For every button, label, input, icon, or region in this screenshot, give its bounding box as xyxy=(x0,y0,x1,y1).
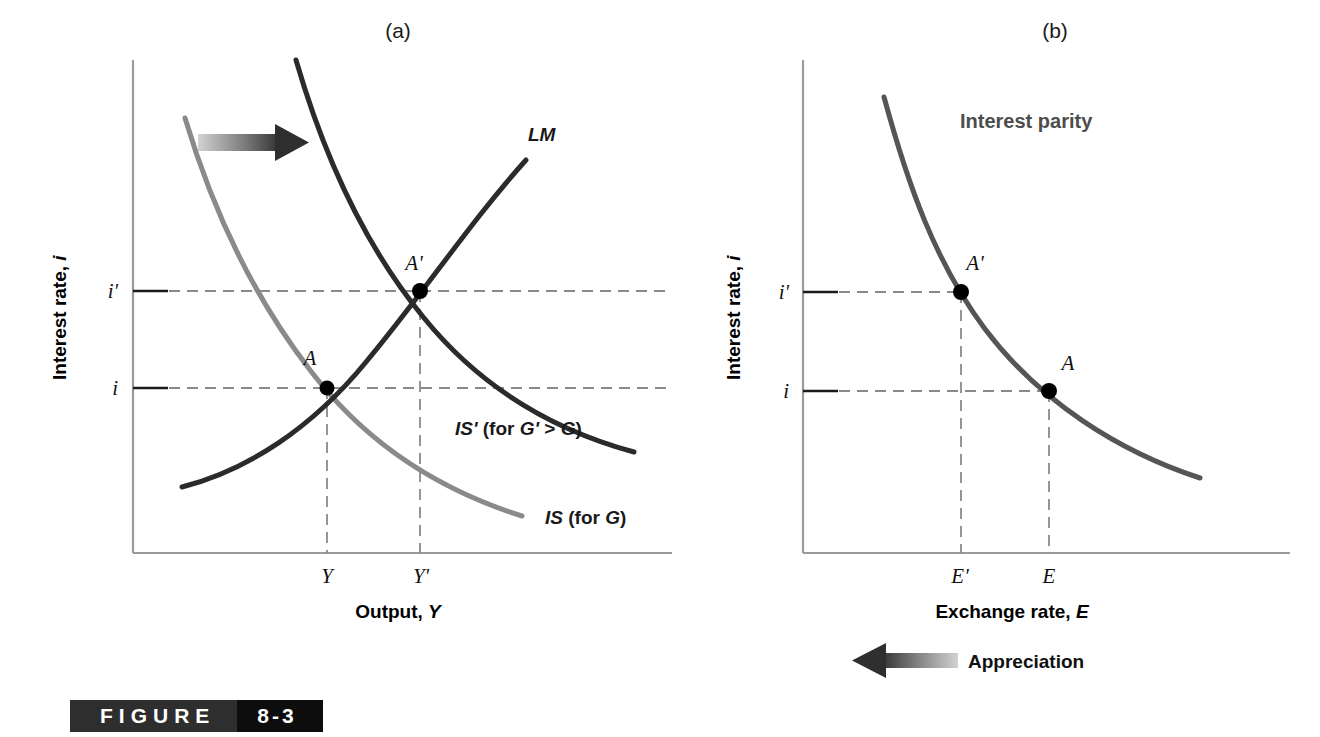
panel-a-point-A xyxy=(320,381,335,396)
panel-a-title: (a) xyxy=(385,19,411,42)
panel-b-interest-parity-curve xyxy=(884,97,1200,478)
figure-canvas: (a) Interest rate, i Output, Y i' xyxy=(0,0,1320,700)
panel-b-ytick-label-i: i xyxy=(783,379,789,403)
panel-b: (b) Interest rate, i Exchange rate, E i' xyxy=(723,19,1290,678)
panel-a-is-prime-curve xyxy=(296,60,634,452)
panel-b-title: (b) xyxy=(1042,19,1068,42)
panel-a-is-prime-label: IS' (for G' > G) xyxy=(455,418,582,439)
panel-a-point-label-A-prime: A' xyxy=(403,251,423,275)
panel-b-xtick-label-E: E xyxy=(1042,564,1056,588)
figure-caption-bar: FIGURE 8-3 xyxy=(70,700,323,732)
panel-a: (a) Interest rate, i Output, Y i' xyxy=(49,19,672,622)
panel-b-interest-parity-label: Interest parity xyxy=(960,110,1093,132)
panel-a-is-label: IS (for G) xyxy=(545,507,626,528)
panel-a-x-axis-title: Output, Y xyxy=(355,601,443,622)
figure-caption-number: 8-3 xyxy=(237,700,322,732)
figure-root: (a) Interest rate, i Output, Y i' xyxy=(0,0,1320,737)
panel-a-xtick-label-Y-prime: Y' xyxy=(413,564,430,588)
panel-b-point-label-A: A xyxy=(1060,351,1075,375)
panel-a-y-axis-title: Interest rate, i xyxy=(49,255,70,380)
panel-a-lm-label: LM xyxy=(528,124,557,145)
panel-a-is-curve xyxy=(185,118,522,516)
panel-a-point-A-prime xyxy=(412,283,428,299)
panel-b-appreciation-label: Appreciation xyxy=(968,651,1084,672)
panel-b-point-label-A-prime: A' xyxy=(964,251,984,275)
panel-a-xtick-label-Y: Y xyxy=(321,564,335,588)
figure-caption-word: FIGURE xyxy=(70,700,237,732)
panel-a-ytick-label-i: i xyxy=(112,376,118,400)
panel-a-ytick-label-i-prime: i' xyxy=(108,279,119,303)
panel-b-ytick-label-i-prime: i' xyxy=(779,280,790,304)
panel-b-y-axis-title: Interest rate, i xyxy=(723,255,744,380)
panel-b-point-A xyxy=(1041,383,1057,399)
panel-b-point-A-prime xyxy=(953,284,969,300)
panel-b-xtick-label-E-prime: E' xyxy=(950,564,969,588)
panel-b-appreciation-arrow-icon xyxy=(852,643,958,678)
panel-a-point-label-A: A xyxy=(302,346,317,370)
panel-b-x-axis-title: Exchange rate, E xyxy=(935,601,1089,622)
panel-a-shift-arrow-icon xyxy=(198,124,309,161)
